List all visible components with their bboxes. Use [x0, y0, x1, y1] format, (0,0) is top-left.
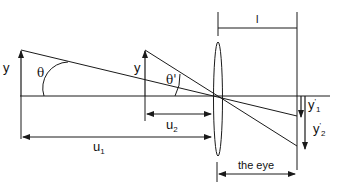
- theta-label: θ: [37, 67, 44, 79]
- image1-height-label: y'1: [308, 98, 320, 114]
- image1-height-sub: 1: [316, 105, 320, 114]
- l-label: l: [256, 14, 258, 25]
- u2-label: u2: [166, 118, 178, 134]
- the-eye-label: the eye: [238, 160, 274, 171]
- u1-label: u1: [93, 140, 105, 156]
- u2-sub: 2: [173, 125, 177, 134]
- u1-sub: 1: [100, 147, 104, 156]
- lens: [214, 42, 223, 156]
- image2-height-label: y'2: [313, 122, 325, 138]
- theta-arc: [43, 62, 68, 96]
- object1-height-label: y: [3, 61, 10, 74]
- ray-diagram: [0, 0, 338, 189]
- image2-height-sub: 2: [321, 129, 325, 138]
- object2-height-label: y: [134, 61, 141, 74]
- theta-prime-label: θ': [166, 74, 177, 86]
- ray-object1: [21, 50, 297, 116]
